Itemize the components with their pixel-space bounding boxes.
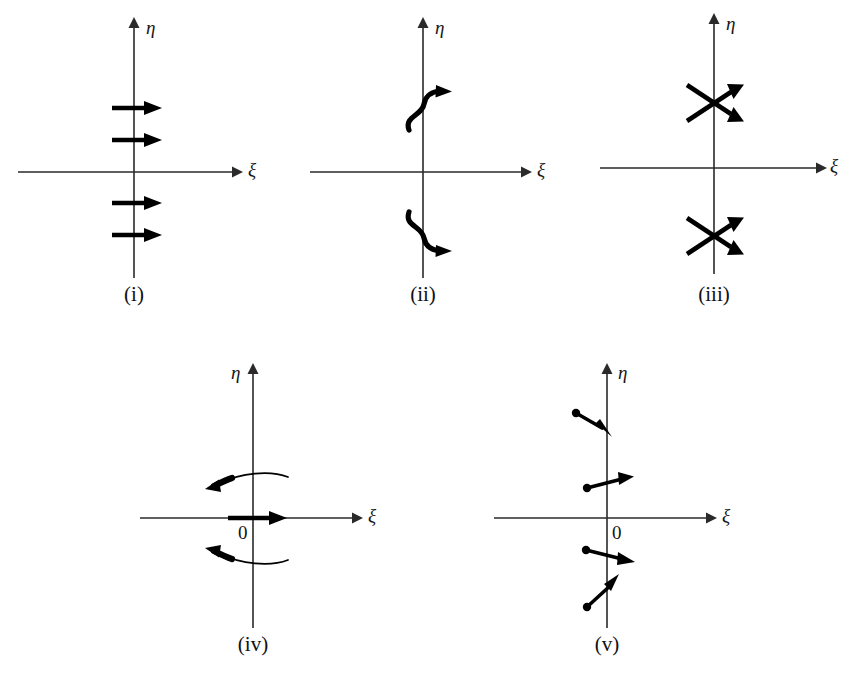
- panel-i-eta-label: η: [146, 18, 155, 37]
- panel-caption-iv: (iv): [238, 634, 268, 655]
- panel-v-eta-label: η: [618, 363, 627, 382]
- panel-i-vector-2: [112, 133, 162, 147]
- panel-caption-v: (v): [595, 634, 620, 655]
- panel-v-vector-4: [583, 574, 619, 611]
- panel-i-vector-3: [112, 196, 162, 210]
- panel-iii: [600, 13, 827, 274]
- panel-ii-hook-lower: [408, 212, 452, 257]
- panel-i: [18, 17, 243, 278]
- panel-iii-xi-label: ξ: [830, 156, 838, 175]
- panel-v-xi-label: ξ: [722, 506, 730, 525]
- panel-i-xi-axis: [18, 167, 243, 178]
- panel-iii-cross-lower: [687, 217, 744, 255]
- panel-caption-i: (i): [124, 284, 144, 305]
- panel-iv-origin-label: 0: [238, 523, 248, 542]
- panel-ii-xi-axis: [310, 167, 532, 178]
- panel-ii-xi-label: ξ: [537, 160, 545, 179]
- panel-v-xi-axis: [494, 513, 717, 524]
- panel-iii-eta-label: η: [726, 14, 735, 33]
- phase-portrait-figure: [0, 0, 854, 673]
- panel-ii-hook-upper: [408, 85, 452, 130]
- panel-ii: [310, 17, 532, 278]
- panel-v-vector-1: [572, 409, 612, 437]
- panel-i-eta-axis: [129, 17, 140, 278]
- panel-iv-arc-upper: [205, 473, 288, 492]
- panel-caption-iii: (iii): [698, 284, 730, 305]
- panel-v-vector-3: [582, 546, 635, 565]
- panel-v: [494, 363, 717, 628]
- panel-v-vector-2: [583, 472, 634, 492]
- panel-i-xi-label: ξ: [248, 160, 256, 179]
- panel-iii-cross-upper: [687, 84, 744, 122]
- panel-i-vector-4: [112, 228, 162, 242]
- panel-v-origin-label: 0: [612, 523, 622, 542]
- panel-ii-eta-label: η: [435, 18, 444, 37]
- panel-iv-arc-lower: [205, 545, 288, 564]
- panel-iv-vector-axis: [228, 511, 287, 525]
- panel-iv-eta-axis: [248, 363, 259, 628]
- panel-i-vector-1: [112, 101, 162, 115]
- panel-iv-xi-label: ξ: [368, 506, 376, 525]
- figure-root: η ξ (i) η ξ (ii) η ξ (iii) η ξ 0 (iv) η …: [0, 0, 854, 673]
- panel-caption-ii: (ii): [410, 284, 436, 305]
- panel-iv: [140, 363, 363, 628]
- panel-iv-eta-label: η: [231, 363, 240, 382]
